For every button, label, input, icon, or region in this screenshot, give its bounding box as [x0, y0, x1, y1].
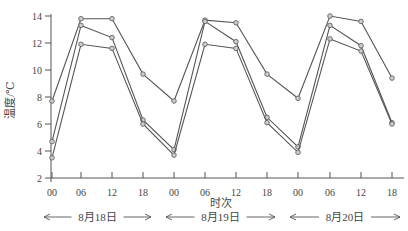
data-point-marker [110, 46, 115, 51]
series-layer [50, 14, 395, 160]
y-axis: 2468101214 [32, 11, 51, 184]
data-point-marker [234, 21, 239, 26]
data-point-marker [359, 43, 364, 48]
data-point-marker [296, 96, 301, 101]
data-point-marker [79, 16, 84, 21]
x-tick-label: 00 [47, 187, 57, 198]
x-tick-label: 06 [325, 187, 335, 198]
line-series-1 [50, 14, 395, 104]
y-tick-label: 8 [37, 92, 42, 103]
y-tick-label: 12 [32, 38, 42, 49]
data-point-marker [141, 122, 146, 127]
data-point-marker [390, 76, 395, 81]
day-label: 8月19日 [201, 211, 240, 223]
data-point-marker [172, 99, 177, 104]
data-point-marker [328, 23, 333, 28]
data-point-marker [50, 156, 55, 161]
day-group-annotations: 8月18日8月19日8月20日 [44, 211, 400, 223]
day-label: 8月20日 [326, 211, 365, 223]
data-point-marker [265, 120, 270, 125]
data-point-marker [79, 42, 84, 47]
data-point-marker [203, 42, 208, 47]
data-point-marker [172, 153, 177, 158]
line-series-3 [50, 37, 395, 161]
data-point-marker [359, 49, 364, 54]
data-point-marker [203, 19, 208, 24]
data-point-marker [328, 14, 333, 19]
x-tick-label: 18 [262, 187, 272, 198]
day-group: 8月20日 [290, 211, 400, 223]
data-point-marker [296, 150, 301, 155]
data-point-marker [328, 37, 333, 42]
data-point-marker [50, 99, 55, 104]
x-tick-label: 06 [200, 187, 210, 198]
day-group: 8月19日 [166, 211, 275, 223]
data-point-marker [50, 139, 55, 144]
y-tick-label: 14 [32, 11, 42, 22]
y-axis-label: 温度/℃ [3, 81, 16, 118]
data-point-marker [234, 46, 239, 51]
x-axis: 000612180006121800061218 [47, 172, 404, 198]
data-point-marker [79, 23, 84, 28]
y-tick-label: 2 [37, 173, 42, 184]
data-point-marker [359, 19, 364, 24]
temperature-line-chart: 2468101214 000612180006121800061218 温度/℃… [0, 0, 408, 231]
data-point-marker [141, 72, 146, 77]
data-point-marker [110, 35, 115, 40]
x-axis-label: 时次 [210, 196, 232, 209]
day-group: 8月18日 [44, 211, 151, 223]
y-tick-label: 6 [37, 119, 42, 130]
data-point-marker [390, 122, 395, 127]
x-tick-label: 12 [356, 187, 366, 198]
x-tick-label: 18 [387, 187, 397, 198]
x-tick-label: 12 [231, 187, 241, 198]
x-tick-label: 18 [138, 187, 148, 198]
line-series-2 [50, 19, 395, 152]
x-tick-label: 00 [169, 187, 179, 198]
x-tick-label: 06 [76, 187, 86, 198]
x-tick-label: 00 [293, 187, 303, 198]
day-label: 8月18日 [78, 211, 117, 223]
data-point-marker [234, 39, 239, 44]
y-tick-label: 10 [32, 65, 42, 76]
data-point-marker [110, 16, 115, 21]
x-tick-label: 12 [107, 187, 117, 198]
y-tick-label: 4 [37, 146, 42, 157]
data-point-marker [265, 72, 270, 77]
